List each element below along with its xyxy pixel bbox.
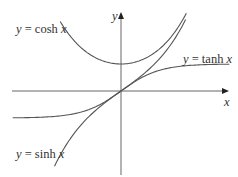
x-axis-label: x: [224, 96, 230, 109]
sinh-label-x: x: [59, 147, 65, 161]
tanh-label: y = tanh x: [183, 53, 232, 66]
cosh-label-text: = cosh: [22, 22, 61, 36]
tanh-label-text: = tanh: [189, 52, 227, 66]
sinh-label-text: = sinh: [22, 147, 59, 161]
y-axis-label: y: [112, 10, 118, 23]
tanh-label-x: x: [227, 52, 233, 66]
sinh-label: y = sinh x: [16, 148, 64, 161]
cosh-curve: [60, 13, 186, 64]
y-axis-arrow-icon: [118, 12, 124, 19]
cosh-label: y = cosh x: [16, 23, 66, 36]
sinh-curve: [55, 20, 186, 167]
cosh-label-x: x: [61, 22, 67, 36]
x-axis-arrow-icon: [222, 88, 229, 94]
